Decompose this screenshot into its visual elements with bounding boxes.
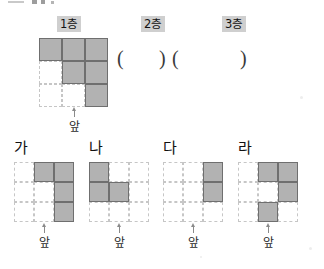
option-1-cell-r1c2 (109, 162, 129, 182)
option-letter-ga: 가 (14, 140, 28, 157)
option-3-cell-r2c2 (258, 182, 278, 202)
reference-cell-r3c1 (39, 84, 62, 107)
reference-cell-r3c3 (85, 84, 108, 107)
option-letter-da: 다 (163, 140, 177, 157)
up-arrow-icon (105, 223, 133, 233)
reference-cell-r2c2 (62, 61, 85, 84)
reference-cell-r2c1 (39, 61, 62, 84)
option-3-cell-r2c1 (238, 182, 258, 202)
up-arrow-icon (254, 223, 282, 233)
answer-blank-2-close-paren: ) (240, 48, 247, 68)
option-3-cell-r3c1 (238, 202, 258, 222)
remnant-mark-1 (8, 1, 24, 3)
option-1-cell-r3c3 (129, 202, 149, 222)
up-arrow-icon (179, 223, 207, 233)
option-2-cell-r3c1 (163, 202, 183, 222)
scan-speckle (200, 256, 202, 258)
option-0-cell-r3c2 (34, 202, 54, 222)
reference-cell-r1c1 (39, 38, 62, 61)
remnant-mark-3 (41, 0, 45, 4)
option-2-cell-r2c3 (203, 182, 223, 202)
option-0-cell-r3c3 (54, 202, 74, 222)
option-0-cell-r2c2 (34, 182, 54, 202)
front-label-reference: 앞 (69, 120, 80, 135)
scan-speckle (309, 247, 312, 250)
option-1-cell-r1c3 (129, 162, 149, 182)
option-grid-ga[interactable] (14, 162, 74, 222)
front-label-ga: 앞 (39, 236, 50, 251)
option-3-cell-r2c3 (278, 182, 298, 202)
option-0-cell-r1c3 (54, 162, 74, 182)
front-marker-ga: 앞 (30, 223, 58, 251)
floor-label-3: 3층 (222, 16, 246, 32)
option-1-cell-r2c3 (129, 182, 149, 202)
option-3-cell-r1c3 (278, 162, 298, 182)
option-2-cell-r2c1 (163, 182, 183, 202)
up-arrow-icon (60, 107, 88, 117)
option-0-cell-r3c1 (14, 202, 34, 222)
remnant-mark-4 (51, 1, 54, 4)
front-label-na: 앞 (114, 236, 125, 251)
cropped-text-remnant (8, 0, 68, 5)
option-3-cell-r1c2 (258, 162, 278, 182)
front-marker-reference: 앞 (60, 107, 88, 135)
answer-blank-2-open-paren: ( (172, 48, 179, 68)
option-grid-da[interactable] (163, 162, 223, 222)
option-2-cell-r2c2 (183, 182, 203, 202)
option-3-cell-r3c2 (258, 202, 278, 222)
reference-cell-r1c2 (62, 38, 85, 61)
option-1-cell-r1c1 (89, 162, 109, 182)
option-1-cell-r3c1 (89, 202, 109, 222)
front-label-da: 앞 (188, 236, 199, 251)
reference-cell-r1c3 (85, 38, 108, 61)
answer-blank-1-open-paren: ( (117, 48, 124, 68)
option-1-cell-r3c2 (109, 202, 129, 222)
option-2-cell-r1c1 (163, 162, 183, 182)
reference-layer-grid (39, 38, 108, 107)
option-grid-ra[interactable] (238, 162, 298, 222)
option-0-cell-r2c3 (54, 182, 74, 202)
option-0-cell-r2c1 (14, 182, 34, 202)
option-1-cell-r2c2 (109, 182, 129, 202)
up-arrow-icon (30, 223, 58, 233)
option-letter-na: 나 (89, 140, 103, 157)
option-2-cell-r3c3 (203, 202, 223, 222)
scan-speckle (300, 96, 303, 99)
front-marker-ra: 앞 (254, 223, 282, 251)
option-1-cell-r2c1 (89, 182, 109, 202)
answer-blank-1-close-paren: ) (159, 48, 166, 68)
option-3-cell-r3c3 (278, 202, 298, 222)
reference-cell-r3c2 (62, 84, 85, 107)
floor-label-1: 1층 (57, 16, 81, 32)
option-0-cell-r1c1 (14, 162, 34, 182)
reference-cell-r2c3 (85, 61, 108, 84)
option-2-cell-r1c2 (183, 162, 203, 182)
front-marker-da: 앞 (179, 223, 207, 251)
floor-label-2: 2층 (141, 16, 165, 32)
option-letter-ra: 라 (238, 140, 252, 157)
option-3-cell-r1c1 (238, 162, 258, 182)
front-label-ra: 앞 (263, 236, 274, 251)
option-2-cell-r3c2 (183, 202, 203, 222)
option-2-cell-r1c3 (203, 162, 223, 182)
front-marker-na: 앞 (105, 223, 133, 251)
option-grid-na[interactable] (89, 162, 149, 222)
option-0-cell-r1c2 (34, 162, 54, 182)
remnant-mark-2 (32, 0, 37, 4)
